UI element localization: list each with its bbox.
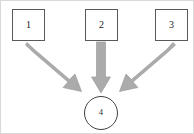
arrow-3-to-4 [120, 43, 176, 92]
node-box-2[interactable]: 2 [85, 9, 118, 41]
diagram-canvas: 1 2 3 4 [0, 0, 194, 134]
node-box-3-label: 3 [169, 20, 174, 30]
node-circle-4[interactable]: 4 [84, 96, 118, 130]
arrow-1-to-4 [26, 43, 82, 92]
node-box-2-label: 2 [99, 20, 104, 30]
node-box-1[interactable]: 1 [12, 9, 45, 41]
node-box-1-label: 1 [26, 20, 31, 30]
arrow-2-to-4 [92, 42, 111, 93]
node-circle-4-label: 4 [99, 109, 103, 117]
node-box-3[interactable]: 3 [155, 9, 188, 41]
